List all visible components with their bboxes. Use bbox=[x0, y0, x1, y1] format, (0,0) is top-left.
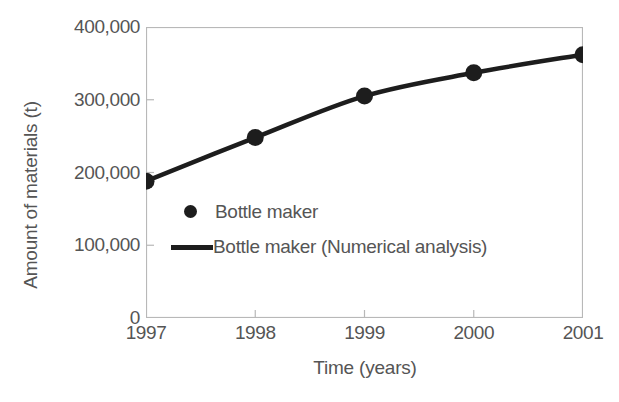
chart-svg bbox=[146, 27, 583, 318]
data-point bbox=[146, 173, 155, 190]
data-point bbox=[575, 46, 584, 63]
y-tick-400000: 400,000 bbox=[0, 16, 140, 38]
y-tick-label: 400,000 bbox=[0, 16, 140, 38]
data-point bbox=[356, 88, 373, 105]
y-tick-100000: 100,000 bbox=[0, 234, 140, 256]
y-tick-300000: 300,000 bbox=[0, 89, 140, 111]
legend-label-bottle-maker-numerical-analysis: Bottle maker (Numerical analysis) bbox=[213, 236, 487, 258]
y-tick-label: 100,000 bbox=[0, 234, 140, 256]
legend-label-bottle-maker: Bottle maker bbox=[215, 201, 318, 223]
series-line-numerical-analysis bbox=[146, 55, 583, 182]
x-tick-1998: 1998 bbox=[210, 322, 300, 344]
legend-circle-marker-icon bbox=[184, 205, 197, 218]
data-point bbox=[465, 64, 482, 81]
data-point bbox=[247, 129, 264, 146]
y-tick-200000: 200,000 bbox=[0, 162, 140, 184]
x-tick-2001: 2001 bbox=[538, 322, 619, 344]
series-markers-bottle-maker bbox=[146, 46, 583, 190]
figure-container: Amount of materials (t) 0 100,000 200,00… bbox=[0, 0, 619, 402]
x-tick-2000: 2000 bbox=[429, 322, 519, 344]
x-tick-marks bbox=[255, 310, 474, 318]
x-tick-1997: 1997 bbox=[101, 322, 191, 344]
y-tick-label: 300,000 bbox=[0, 89, 140, 111]
plot-frame bbox=[147, 28, 583, 318]
legend-line-marker-icon bbox=[171, 245, 213, 250]
x-tick-1999: 1999 bbox=[320, 322, 410, 344]
plot-area bbox=[146, 27, 583, 318]
y-tick-label: 200,000 bbox=[0, 162, 140, 184]
x-axis-title: Time (years) bbox=[146, 357, 584, 379]
y-tick-marks bbox=[146, 100, 154, 246]
